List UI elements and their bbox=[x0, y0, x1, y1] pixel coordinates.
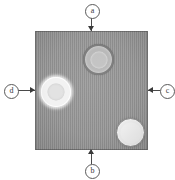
circular-feature-top-core bbox=[90, 51, 107, 68]
circular-feature-bottom-right-core bbox=[120, 122, 141, 143]
figure-root: a d c b bbox=[0, 0, 175, 180]
annotation-label-d: d bbox=[4, 84, 19, 99]
circular-feature-bottom-right bbox=[116, 118, 145, 147]
arrowhead-down-icon bbox=[88, 26, 94, 31]
circular-feature-left-core bbox=[48, 84, 65, 101]
circular-feature-left bbox=[41, 77, 71, 107]
annotation-label-a: a bbox=[85, 4, 100, 19]
arrowhead-up-icon bbox=[88, 149, 94, 154]
circular-feature-top bbox=[83, 44, 114, 75]
specimen-square bbox=[35, 31, 148, 150]
annotation-label-b: b bbox=[85, 164, 100, 179]
arrowhead-right-icon bbox=[30, 87, 35, 93]
annotation-label-c: c bbox=[160, 84, 175, 99]
arrowhead-left-icon bbox=[148, 87, 153, 93]
